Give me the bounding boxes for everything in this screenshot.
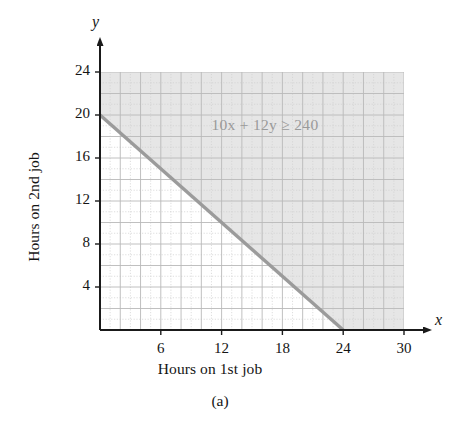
x-tick-label: 6 — [141, 340, 181, 357]
y-tick-label: 20 — [48, 105, 90, 122]
x-axis-title: Hours on 1st job — [0, 360, 420, 378]
y-axis-variable-label: y — [92, 13, 99, 31]
figure-caption: (a) — [0, 392, 440, 410]
y-tick-label: 4 — [48, 277, 90, 294]
graph-figure: x y 10x + 12y ≥ 240 612182430 4812162024… — [0, 0, 464, 430]
inequality-annotation: 10x + 12y ≥ 240 — [211, 116, 318, 134]
y-axis-title: Hours on 2nd job — [25, 87, 43, 327]
x-tick-label: 12 — [202, 340, 242, 357]
x-axis-variable-label: x — [435, 311, 442, 329]
y-tick-label: 12 — [48, 191, 90, 208]
y-tick-label: 24 — [48, 62, 90, 79]
x-tick-label: 18 — [262, 340, 302, 357]
y-tick-label: 8 — [48, 234, 90, 251]
x-tick-label: 30 — [384, 340, 424, 357]
x-tick-label: 24 — [323, 340, 363, 357]
y-tick-label: 16 — [48, 148, 90, 165]
